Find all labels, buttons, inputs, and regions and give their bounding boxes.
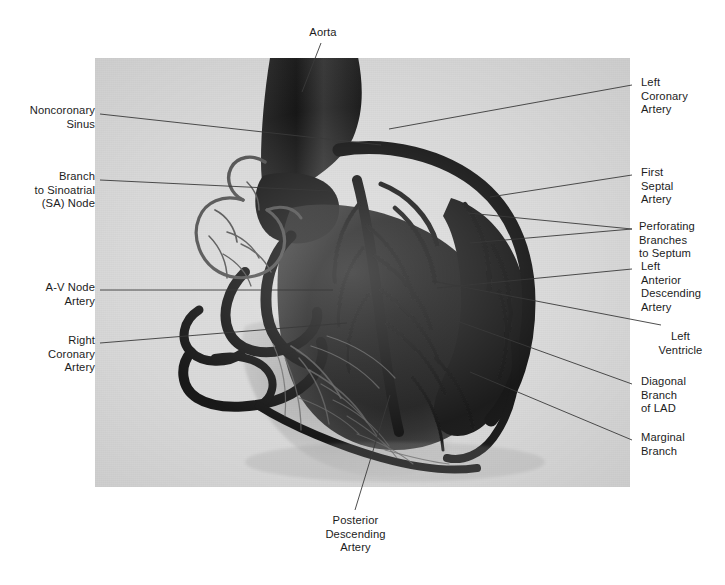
- label-left-coronary-artery: Left Coronary Artery: [641, 76, 725, 117]
- label-marginal-branch: Marginal Branch: [641, 431, 725, 458]
- label-posterior-descending-artery: Posterior Descending Artery: [273, 514, 438, 555]
- angiogram-photo-plate: [95, 58, 630, 487]
- specimen-shadow: [245, 442, 545, 482]
- label-diagonal-branch-of-lad: Diagonal Branch of LAD: [641, 375, 725, 416]
- label-left-anterior-descending-artery: Left Anterior Descending Artery: [641, 260, 725, 314]
- label-av-node-artery: A-V Node Artery: [0, 281, 104, 308]
- label-perforating-branches: Perforating Branches to Septum: [639, 220, 725, 261]
- label-right-coronary-artery: Right Coronary Artery: [0, 334, 104, 375]
- label-noncoronary-sinus: Noncoronary Sinus: [0, 104, 104, 131]
- label-sa-node-branch: Branch to Sinoatrial (SA) Node: [0, 170, 104, 211]
- label-first-septal-artery: First Septal Artery: [641, 166, 725, 207]
- label-aorta: Aorta: [268, 26, 378, 40]
- label-left-ventricle: Left Ventricle: [636, 330, 725, 357]
- coronary-artery-cast-specimen: [95, 58, 630, 487]
- anatomical-figure: Aorta Noncoronary Sinus Branch to Sinoat…: [0, 0, 725, 585]
